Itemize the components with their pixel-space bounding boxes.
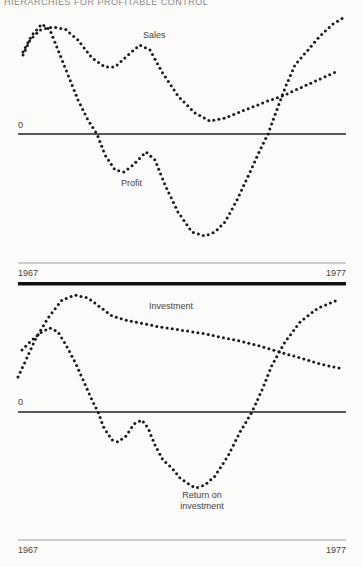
sales-dot	[89, 55, 92, 58]
return-on-investment-dot	[116, 440, 119, 443]
investment-dot	[232, 338, 235, 341]
return-on-investment-dot	[168, 465, 171, 468]
return-on-investment-dot	[334, 300, 337, 303]
profit-dot	[165, 187, 168, 190]
return-on-investment-dot	[196, 486, 199, 489]
profit-dot	[274, 113, 277, 116]
sales-dot	[300, 86, 303, 89]
return-on-investment-dot	[77, 369, 80, 372]
return-on-investment-dot	[68, 350, 71, 353]
top-chart: 0 1967 1977 Sales Profit	[18, 17, 346, 278]
profit-dot	[138, 157, 141, 160]
sales-dot	[328, 73, 331, 76]
page-header-text: HIERARCHIES FOR PROFITABLE CONTROL	[4, 0, 208, 7]
return-on-investment-dot	[28, 341, 31, 344]
zero-label: 0	[18, 120, 23, 130]
investment-dot	[25, 357, 28, 360]
investment-dot	[247, 342, 250, 345]
investment-dot	[252, 343, 255, 346]
return-on-investment-dot	[164, 461, 167, 464]
investment-dot	[181, 329, 184, 332]
sales-dot	[186, 104, 189, 107]
return-on-investment-dot	[329, 302, 332, 305]
profit-dot	[293, 65, 296, 68]
return-on-investment-dot	[90, 397, 93, 400]
investment-dot	[186, 330, 189, 333]
return-on-investment-dot	[264, 379, 267, 382]
sales-dot	[190, 108, 193, 111]
return-on-investment-dot	[209, 478, 212, 481]
profit-dot	[163, 182, 166, 185]
investment-dot	[237, 339, 240, 342]
profit-dot	[63, 65, 66, 68]
return-on-investment-dot	[142, 420, 145, 423]
investment-dot	[17, 376, 20, 379]
sales-dot	[194, 112, 197, 115]
sales-dot	[252, 105, 255, 108]
investment-dot	[47, 316, 50, 319]
return-on-investment-dot	[183, 479, 186, 482]
profit-dot	[317, 37, 320, 40]
profit-dot	[341, 17, 344, 20]
return-on-investment-dot	[261, 388, 264, 391]
return-on-investment-dot	[319, 305, 322, 308]
return-on-investment-dot	[97, 411, 100, 414]
return-on-investment-dot	[95, 407, 98, 410]
return-on-investment-dot	[120, 438, 123, 441]
return-on-investment-dot	[239, 430, 242, 433]
profit-dot	[32, 32, 35, 35]
sales-dot	[256, 103, 259, 106]
return-on-investment-dot	[124, 435, 127, 438]
sales-dot	[237, 111, 240, 114]
sales-dot	[170, 84, 173, 87]
top-series-dots	[22, 17, 344, 237]
sales-dot	[179, 97, 182, 100]
return-on-investment-dot	[130, 426, 133, 429]
investment-dot	[160, 326, 163, 329]
profit-dot	[306, 49, 309, 52]
return-on-investment-dot	[289, 333, 292, 336]
profit-dot	[202, 234, 205, 237]
profit-dot	[42, 24, 45, 27]
return-on-investment-dot	[75, 364, 78, 367]
return-on-investment-dot	[66, 346, 69, 349]
profit-dot	[260, 146, 263, 149]
profit-dot	[26, 41, 29, 44]
profit-dot	[86, 117, 89, 120]
sales-dot	[203, 116, 206, 119]
profit-dot	[102, 150, 105, 153]
return-on-investment-dot	[172, 468, 175, 471]
profit-dot	[161, 177, 164, 180]
investment-dot	[75, 294, 78, 297]
profit-dot	[277, 103, 280, 106]
profit-dot	[291, 69, 294, 72]
profit-dot	[251, 165, 254, 168]
sales-dot	[319, 77, 322, 80]
profit-dot	[231, 207, 234, 210]
return-on-investment-dot	[250, 412, 253, 415]
profit-dot	[170, 196, 173, 199]
investment-dot	[21, 366, 24, 369]
profit-dot	[179, 215, 182, 218]
return-on-investment-dot	[145, 425, 148, 428]
profit-dot	[113, 167, 116, 170]
profit-dot	[47, 27, 50, 30]
profit-dot	[117, 169, 120, 172]
investment-dot	[115, 316, 118, 319]
return-on-investment-dot	[191, 485, 194, 488]
profit-dot	[142, 153, 145, 156]
sales-dot	[120, 60, 123, 63]
profit-dot	[24, 46, 27, 49]
profit-dot	[172, 201, 175, 204]
return-on-investment-dot	[82, 378, 85, 381]
profit-dot	[131, 164, 134, 167]
profit-dot	[57, 50, 60, 53]
return-on-investment-dot	[36, 334, 39, 337]
sales-dot	[101, 64, 104, 67]
return-on-investment-dot	[324, 304, 327, 307]
return-on-investment-dot	[266, 374, 269, 377]
investment-dot	[106, 311, 109, 314]
investment-dot	[57, 303, 60, 306]
return-on-investment-dot	[219, 466, 222, 469]
return-on-investment-dot	[222, 462, 225, 465]
